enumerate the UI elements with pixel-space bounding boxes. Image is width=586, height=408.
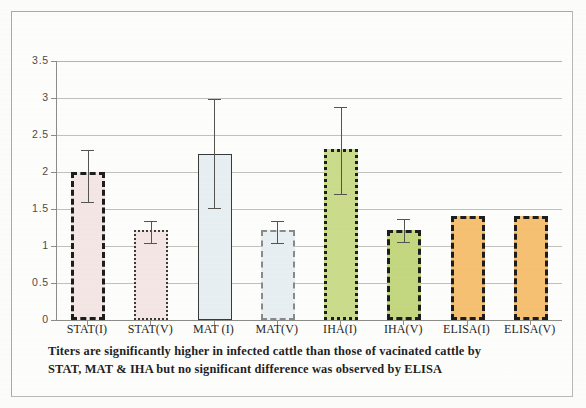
error-bar-cap-lower bbox=[271, 243, 284, 244]
error-bar-line bbox=[277, 221, 278, 243]
x-tick-label-iha-i: IHA(I) bbox=[304, 322, 376, 337]
figure-caption: Titers are significantly higher in infec… bbox=[48, 343, 548, 378]
error-bar-cap-upper bbox=[81, 150, 94, 151]
x-tick-label-mat-i: MAT (I) bbox=[178, 322, 250, 337]
y-tick-label: 2 bbox=[42, 165, 49, 177]
error-bar-cap-upper bbox=[397, 219, 410, 220]
scanned-page: 3.5 3 2.5 2 1.5 1 0.5 0 bbox=[0, 0, 586, 408]
error-bar-cap-upper bbox=[208, 99, 221, 100]
y-tick-label: 3 bbox=[42, 91, 49, 103]
bar-slot bbox=[436, 61, 499, 320]
x-tick-label-iha-v: IHA(V) bbox=[367, 322, 439, 337]
bar-slot bbox=[246, 61, 309, 320]
bar-iha-v[interactable] bbox=[387, 230, 421, 320]
bar-slot bbox=[119, 61, 182, 320]
x-axis-line bbox=[56, 320, 562, 321]
x-tick-label-elisa-v: ELISA(V) bbox=[494, 322, 566, 337]
y-tick-label: 0.5 bbox=[32, 276, 49, 288]
error-bar-cap-lower bbox=[397, 242, 410, 243]
y-axis-tick-labels: 3.5 3 2.5 2 1.5 1 0.5 0 bbox=[16, 61, 49, 320]
y-tick-label: 3.5 bbox=[32, 54, 49, 66]
x-tick-label-stat-v: STAT(V) bbox=[114, 322, 186, 337]
error-bar-cap-lower bbox=[208, 208, 221, 209]
error-bar-line bbox=[404, 219, 405, 242]
y-axis-tick bbox=[51, 320, 56, 321]
y-tick-label: 1 bbox=[42, 239, 49, 251]
error-bar-cap-upper bbox=[271, 221, 284, 222]
error-bar-line bbox=[214, 99, 215, 208]
caption-line-2: STAT, MAT & IHA but no significant diffe… bbox=[48, 361, 548, 379]
error-bar-cap-lower bbox=[334, 194, 347, 195]
bar-elisa-v[interactable] bbox=[514, 216, 548, 320]
error-bar-cap-lower bbox=[144, 243, 157, 244]
caption-line-1: Titers are significantly higher in infec… bbox=[48, 343, 548, 361]
error-bar-cap-upper bbox=[144, 221, 157, 222]
error-bar-line bbox=[341, 107, 342, 194]
error-bar-cap-lower bbox=[81, 202, 94, 203]
x-tick-label-mat-v: MAT(V) bbox=[241, 322, 313, 337]
error-bar-cap-upper bbox=[334, 107, 347, 108]
y-tick-label: 1.5 bbox=[32, 202, 49, 214]
x-tick-label-stat-i: STAT(I) bbox=[51, 322, 123, 337]
x-axis-tick-labels: STAT(I) STAT(V) MAT (I) MAT(V) IHA(I) IH… bbox=[56, 322, 562, 344]
bar-slot bbox=[499, 61, 562, 320]
y-tick-label: 2.5 bbox=[32, 128, 49, 140]
bar-slot bbox=[372, 61, 435, 320]
y-tick-label: 0 bbox=[42, 313, 49, 325]
bar-elisa-i[interactable] bbox=[451, 216, 485, 320]
x-tick-label-elisa-i: ELISA(I) bbox=[431, 322, 503, 337]
error-bar-line bbox=[151, 221, 152, 243]
plot-area bbox=[56, 61, 562, 320]
error-bar-line bbox=[88, 150, 89, 202]
